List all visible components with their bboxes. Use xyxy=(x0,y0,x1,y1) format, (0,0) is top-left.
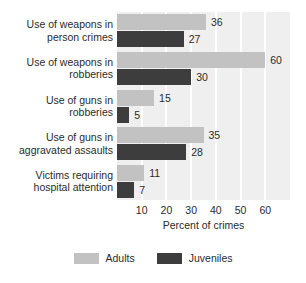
bar-adults-2 xyxy=(117,90,154,106)
bar-value-label: 5 xyxy=(134,107,140,123)
legend-swatch-icon xyxy=(157,253,182,264)
bar-value-label: 15 xyxy=(159,90,171,106)
category-label-1: Use of weapons in robberies xyxy=(0,56,113,81)
bar-adults-0 xyxy=(117,14,206,30)
x-tick-label-40: 40 xyxy=(204,203,228,217)
bar-chart: Use of weapons in person crimesUse of we… xyxy=(0,0,306,283)
bar-juveniles-3 xyxy=(117,144,186,160)
legend-label: Juveniles xyxy=(189,252,233,264)
bar-juveniles-1 xyxy=(117,69,191,85)
bar-adults-1 xyxy=(117,52,265,68)
bar-value-label: 7 xyxy=(139,182,145,198)
gridline-60 xyxy=(264,12,266,200)
gridline-50 xyxy=(240,12,242,200)
x-tick-label-20: 20 xyxy=(154,203,178,217)
legend-label: Adults xyxy=(106,252,135,264)
x-axis-ticks: 102030405060 xyxy=(117,203,290,217)
plot-area: 362760301553528117 xyxy=(117,12,290,200)
bar-adults-4 xyxy=(117,165,144,181)
bar-value-label: 36 xyxy=(211,14,223,30)
category-label-4: Victims requiring hospital attention xyxy=(0,169,113,194)
bar-value-label: 28 xyxy=(191,144,203,160)
legend-item-juveniles[interactable]: Juveniles xyxy=(157,252,233,264)
category-axis: Use of weapons in person crimesUse of we… xyxy=(0,12,113,200)
chart-legend: AdultsJuveniles xyxy=(0,252,306,264)
bar-value-label: 60 xyxy=(270,52,282,68)
category-label-3: Use of guns in aggravated assaults xyxy=(0,131,113,156)
x-tick-label-60: 60 xyxy=(253,203,277,217)
bar-value-label: 11 xyxy=(149,165,160,181)
x-tick-label-10: 10 xyxy=(130,203,154,217)
x-axis-title: Percent of crimes xyxy=(117,219,290,231)
bar-value-label: 30 xyxy=(196,69,208,85)
bar-adults-3 xyxy=(117,127,204,143)
x-tick-label-50: 50 xyxy=(229,203,253,217)
bar-value-label: 35 xyxy=(209,127,221,143)
bar-value-label: 27 xyxy=(189,31,201,47)
category-label-0: Use of weapons in person crimes xyxy=(0,18,113,43)
legend-item-adults[interactable]: Adults xyxy=(74,252,135,264)
gridline-40 xyxy=(215,12,217,200)
category-label-2: Use of guns in robberies xyxy=(0,94,113,119)
x-tick-label-30: 30 xyxy=(179,203,203,217)
legend-swatch-icon xyxy=(74,253,99,264)
bar-juveniles-2 xyxy=(117,107,129,123)
bar-juveniles-0 xyxy=(117,31,184,47)
bar-juveniles-4 xyxy=(117,182,134,198)
